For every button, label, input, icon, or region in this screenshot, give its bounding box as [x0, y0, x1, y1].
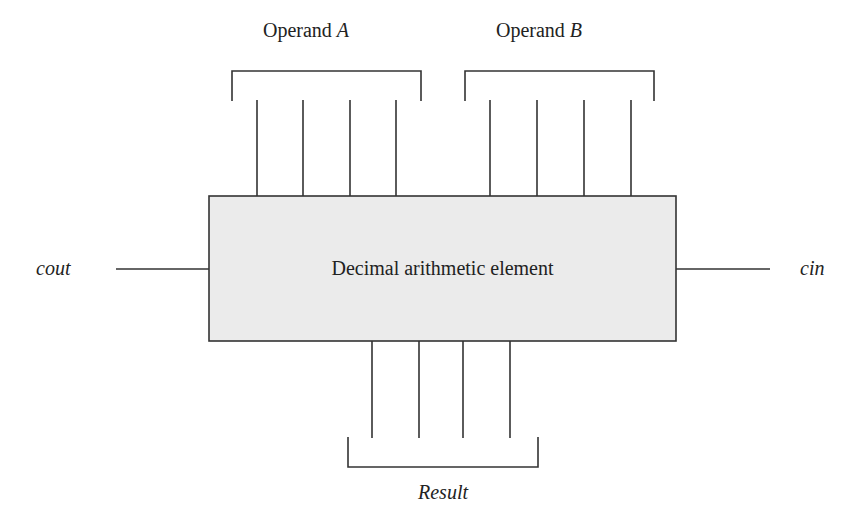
block-label: Decimal arithmetic element — [209, 258, 676, 278]
operand-a-label: Operand A — [263, 20, 349, 40]
operand-a-label-text: Operand — [263, 19, 337, 41]
cout-label: cout — [36, 258, 70, 278]
operand-b-lines — [490, 100, 631, 197]
operand-a-lines — [257, 100, 396, 197]
result-label: Result — [348, 482, 538, 502]
operand-a-var: A — [337, 19, 349, 41]
cin-label: cin — [800, 258, 824, 278]
result-bracket — [348, 437, 538, 467]
operand-b-bracket — [465, 71, 654, 101]
result-lines — [372, 341, 510, 438]
operand-b-label: Operand B — [496, 20, 582, 40]
operand-a-bracket — [232, 71, 421, 101]
operand-b-label-text: Operand — [496, 19, 570, 41]
operand-b-var: B — [570, 19, 582, 41]
